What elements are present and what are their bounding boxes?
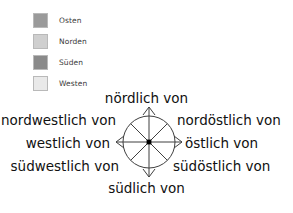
compass-spoke-southeast	[149, 142, 167, 160]
compass-label-north: nördlich von	[0, 92, 293, 106]
legend-item-label: Norden	[59, 38, 87, 46]
compass-rose-diagram: nördlich von nordwestlich von nordöstlic…	[0, 92, 293, 213]
compass-center-dot	[147, 140, 152, 145]
legend-swatch-westen	[33, 76, 48, 91]
legend-swatch-sueden	[33, 55, 48, 70]
compass-label-southwest: südwestlich von	[11, 160, 119, 174]
compass-spoke-northwest	[131, 124, 149, 142]
compass-label-south: südlich von	[0, 182, 293, 196]
legend-swatch-norden	[33, 34, 48, 49]
legend-item-label: Süden	[59, 59, 83, 67]
legend-item-label: Osten	[59, 17, 82, 25]
compass-label-northwest: nordwestlich von	[1, 114, 116, 128]
compass-label-northeast: nordöstlich von	[177, 114, 281, 128]
compass-spoke-southwest	[131, 142, 149, 160]
compass-spoke-northeast	[149, 124, 167, 142]
direction-legend: Osten Norden Süden Westen	[33, 10, 163, 94]
compass-label-east: östlich von	[185, 137, 258, 151]
compass-label-west: westlich von	[26, 137, 110, 151]
legend-item: Süden	[33, 52, 163, 73]
legend-item-label: Westen	[59, 80, 87, 88]
legend-item: Norden	[33, 31, 163, 52]
legend-swatch-osten	[33, 13, 48, 28]
legend-item: Osten	[33, 10, 163, 31]
compass-label-southeast: südöstlich von	[173, 160, 270, 174]
